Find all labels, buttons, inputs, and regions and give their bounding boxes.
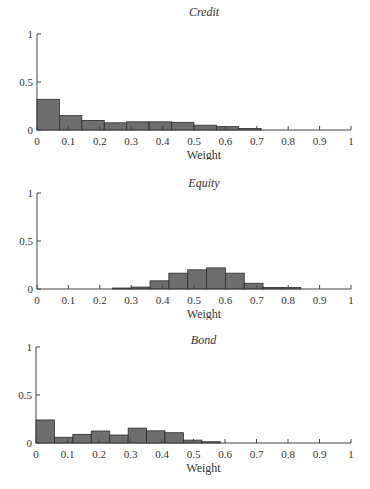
x-tick-label: 0.3 <box>124 448 138 460</box>
y-tick-label: 0 <box>27 437 33 449</box>
histogram-bar <box>82 120 104 130</box>
x-tick-label: 0.5 <box>187 135 201 147</box>
chart-title: Equity <box>187 176 220 190</box>
x-tick-label: 0.1 <box>62 135 76 147</box>
x-tick-label: 0 <box>34 294 40 306</box>
x-tick-label: 0 <box>33 448 39 460</box>
y-tick-label: 0.5 <box>18 389 32 401</box>
histogram-bar <box>91 431 109 443</box>
histogram-bar <box>225 273 244 289</box>
histogram-bar <box>149 122 171 130</box>
y-tick-label: 1 <box>28 28 34 40</box>
equity-histogram: 00.10.20.30.40.50.60.70.80.9100.51Equity… <box>0 160 370 320</box>
y-tick-label: 0.5 <box>19 235 33 247</box>
bond-histogram: 00.10.20.30.40.50.60.70.80.9100.51BondWe… <box>0 320 370 489</box>
x-tick-label: 0.3 <box>124 294 138 306</box>
x-axis-label: Weight <box>187 307 222 320</box>
histogram-bar <box>169 273 188 289</box>
x-tick-label: 0.1 <box>61 448 75 460</box>
histogram-bar <box>110 435 128 443</box>
x-tick-label: 0.6 <box>219 135 233 147</box>
x-tick-label: 0.9 <box>313 448 327 460</box>
x-tick-label: 0.9 <box>313 135 327 147</box>
y-tick-label: 0 <box>28 283 34 295</box>
x-tick-label: 0.8 <box>281 448 295 460</box>
x-tick-label: 0.2 <box>93 294 107 306</box>
x-tick-label: 0.8 <box>281 135 295 147</box>
x-tick-label: 0.9 <box>313 294 327 306</box>
histogram-bar <box>59 116 81 130</box>
x-tick-label: 0.4 <box>156 294 170 306</box>
histogram-bar <box>216 127 238 130</box>
x-tick-label: 0.2 <box>93 135 107 147</box>
y-tick-label: 1 <box>27 341 33 353</box>
x-tick-label: 0.5 <box>187 294 201 306</box>
x-tick-label: 0.5 <box>187 448 201 460</box>
x-tick-label: 1 <box>348 135 354 147</box>
chart-title: Credit <box>189 5 220 19</box>
x-tick-label: 0 <box>34 135 40 147</box>
x-tick-label: 0.7 <box>250 294 264 306</box>
y-tick-label: 0.5 <box>19 76 33 88</box>
histogram-figure: 00.10.20.30.40.50.60.70.80.9100.51Credit… <box>0 0 370 489</box>
histogram-bar <box>104 123 126 130</box>
histogram-bar <box>127 122 149 130</box>
histogram-bar <box>188 270 207 289</box>
x-tick-label: 0.4 <box>155 448 169 460</box>
x-tick-label: 0.6 <box>219 294 233 306</box>
x-tick-label: 0.1 <box>62 294 76 306</box>
x-tick-label: 0.7 <box>250 448 264 460</box>
y-tick-label: 0 <box>28 124 34 136</box>
y-tick-label: 1 <box>28 187 34 199</box>
histogram-bar <box>172 122 194 130</box>
histogram-bar <box>36 420 54 443</box>
x-tick-label: 1 <box>348 294 354 306</box>
histogram-bar <box>150 281 169 289</box>
histogram-bar <box>207 268 226 289</box>
x-axis-label: Weight <box>187 148 222 160</box>
x-tick-label: 0.7 <box>250 135 264 147</box>
credit-histogram: 00.10.20.30.40.50.60.70.80.9100.51Credit… <box>0 0 370 160</box>
x-tick-label: 0.2 <box>92 448 106 460</box>
x-axis-label: Weight <box>186 461 221 475</box>
histogram-bar <box>165 433 183 443</box>
histogram-bar <box>37 99 59 130</box>
histogram-bar <box>244 283 263 289</box>
x-tick-label: 0.6 <box>218 448 232 460</box>
chart-title: Bond <box>191 333 217 347</box>
histogram-bar <box>54 437 72 443</box>
x-tick-label: 0.3 <box>124 135 138 147</box>
histogram-bar <box>73 434 91 443</box>
x-tick-label: 1 <box>348 448 354 460</box>
x-tick-label: 0.4 <box>156 135 170 147</box>
x-tick-label: 0.8 <box>281 294 295 306</box>
histogram-bar <box>194 125 216 130</box>
